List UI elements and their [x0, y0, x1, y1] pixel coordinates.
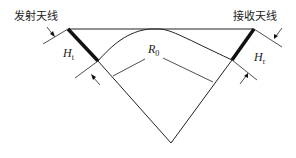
- earth-surface-arc: [98, 29, 232, 61]
- ht-subscript: t: [72, 53, 74, 62]
- ht-extension-bottom: [75, 61, 98, 78]
- transmit-antenna-label: 发射天线: [14, 7, 58, 23]
- r0-leader-right: [163, 58, 213, 82]
- radius-right: [171, 60, 232, 143]
- ht-symbol: H: [63, 46, 72, 60]
- radius-left: [98, 61, 171, 143]
- diagram-svg: [0, 0, 296, 158]
- hr-arrow-bottom-shaft: [240, 76, 246, 84]
- hr-subscript: r: [263, 57, 266, 66]
- hr-label: Hr: [254, 50, 265, 66]
- r0-subscript: 0: [155, 49, 159, 58]
- receive-antenna-mast: [232, 29, 254, 60]
- receive-antenna-label: 接收天线: [233, 7, 277, 23]
- hr-arrow-top-shaft: [276, 28, 282, 36]
- r0-leader-left: [113, 59, 145, 76]
- hr-symbol: H: [254, 50, 263, 64]
- hr-extension-top: [254, 29, 282, 47]
- ht-label: Ht: [63, 46, 74, 62]
- r0-label: R0: [148, 42, 159, 58]
- ht-extension-top: [43, 29, 68, 44]
